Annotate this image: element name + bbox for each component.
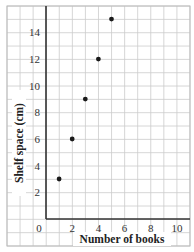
x-tick-label: 10 xyxy=(172,222,184,234)
grid-lines xyxy=(7,6,190,246)
data-point xyxy=(70,137,75,142)
y-tick-label: 14 xyxy=(29,26,41,38)
y-tick-label: 6 xyxy=(35,133,41,145)
data-point xyxy=(96,57,101,62)
data-point xyxy=(109,17,114,22)
y-tick-label: 2 xyxy=(35,186,41,198)
y-tick-label: 8 xyxy=(35,106,41,118)
scatter-chart: 2468101214 0246810 Number of books Shelf… xyxy=(0,0,194,252)
data-point xyxy=(83,97,88,102)
y-axis-label: Shelf space (cm) xyxy=(13,103,26,183)
y-tick-label: 12 xyxy=(29,53,40,65)
y-tick-label: 10 xyxy=(29,80,41,92)
x-axis-label: Number of books xyxy=(80,233,165,245)
data-point xyxy=(57,177,62,182)
x-tick-label: 0 xyxy=(36,222,42,234)
y-tick-label: 4 xyxy=(35,160,41,172)
